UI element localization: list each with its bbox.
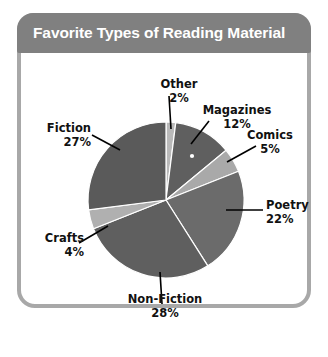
pie-label-comics-percent: 5%: [234, 142, 306, 156]
pie-label-magazines: Magazines 12%: [192, 103, 282, 131]
pie-slice-comics: [166, 150, 239, 200]
pie-label-comics: Comics 5%: [234, 128, 306, 156]
pie-label-fiction: Fiction 27%: [29, 121, 91, 149]
pie-slice-fiction: [88, 122, 166, 210]
pie-label-poetry-percent: 22%: [266, 212, 326, 226]
pie-label-crafts: Crafts 4%: [26, 231, 84, 259]
pie-slice-non-fiction: [93, 200, 207, 278]
pie-label-fiction-percent: 27%: [29, 135, 91, 149]
pie-label-crafts-name: Crafts: [45, 231, 84, 245]
magazines-marker-dot: [190, 154, 194, 158]
pie-label-non-fiction: Non-Fiction 28%: [113, 292, 217, 320]
pie-label-other-name: Other: [161, 77, 198, 91]
chart-card: Favorite Types of Reading Material Other: [17, 13, 311, 308]
pie-label-other: Other 2%: [140, 77, 218, 105]
pie-slice-poetry: [166, 171, 244, 266]
pie-label-non-fiction-percent: 28%: [113, 306, 217, 320]
pie-slice-magazines: [166, 123, 226, 200]
pie-label-crafts-percent: 4%: [26, 245, 84, 259]
page-title: Favorite Types of Reading Material: [33, 24, 285, 42]
pie-label-fiction-name: Fiction: [47, 121, 91, 135]
leader-line-fiction: [92, 135, 120, 150]
pie-slice-crafts: [89, 200, 166, 229]
pie-label-poetry-name: Poetry: [266, 198, 309, 212]
pie-slice-other: [166, 122, 176, 200]
pie-label-comics-name: Comics: [247, 128, 293, 142]
chart-title-bar: Favorite Types of Reading Material: [17, 13, 311, 53]
pie-label-non-fiction-name: Non-Fiction: [128, 292, 203, 306]
pie-label-magazines-name: Magazines: [203, 103, 272, 117]
pie-label-poetry: Poetry 22%: [266, 198, 326, 226]
